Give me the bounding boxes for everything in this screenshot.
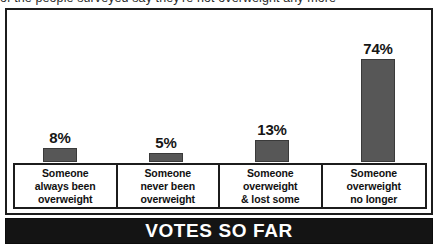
bar-stack-2: 13%: [219, 122, 325, 162]
category-label-line: never been: [141, 180, 195, 193]
category-label-line: Someone: [144, 167, 191, 180]
category-label-line: Someone: [42, 167, 89, 180]
clipped-caption-text: of the people surveyed say they're not o…: [0, 0, 441, 5]
category-label-line: & lost some: [241, 193, 299, 206]
category-label-line: overweight: [38, 193, 92, 206]
bar-value-label-0: 8%: [49, 130, 70, 145]
bar-stack-1: 5%: [113, 135, 219, 162]
category-label-line: always been: [35, 180, 96, 193]
category-label-line: overweight: [347, 180, 401, 193]
bar-stack-3: 74%: [325, 41, 431, 162]
votes-so-far-banner: VOTES SO FAR: [5, 218, 433, 244]
bar-group-3: 74%: [325, 12, 431, 162]
category-label-line: Someone: [350, 167, 397, 180]
category-label-cell-0: Someone always been overweight: [15, 165, 118, 207]
category-label-line: overweight: [243, 180, 297, 193]
bar-value-label-3: 74%: [363, 41, 392, 56]
bar-group-0: 8%: [7, 12, 113, 162]
votes-so-far-banner-text: VOTES SO FAR: [145, 220, 293, 242]
category-label-cell-1: Someone never been overweight: [118, 165, 221, 207]
category-label-line: no longer: [350, 193, 397, 206]
category-label-line: overweight: [141, 193, 195, 206]
bar-group-2: 13%: [219, 12, 325, 162]
category-label-cell-3: Someone overweight no longer: [323, 165, 426, 207]
bar-rect-2: [255, 140, 289, 162]
category-label-cell-2: Someone overweight & lost some: [220, 165, 323, 207]
bar-rect-3: [361, 59, 395, 162]
bar-rect-0: [43, 148, 77, 162]
category-label-line: Someone: [247, 167, 294, 180]
chart-frame: 8% 5% 13% 74% Someone alway: [5, 8, 433, 215]
bar-group-1: 5%: [113, 12, 219, 162]
bar-value-label-1: 5%: [155, 135, 176, 150]
bar-value-label-2: 13%: [257, 122, 286, 137]
bar-stack-0: 8%: [7, 130, 113, 162]
bar-rect-1: [149, 153, 183, 162]
category-label-table: Someone always been overweight Someone n…: [13, 163, 427, 209]
